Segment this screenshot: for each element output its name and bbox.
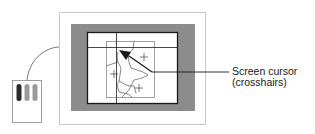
puck-button-1	[17, 84, 22, 101]
puck-button-3	[33, 84, 38, 101]
callout-label-subtitle: (crosshairs)	[232, 77, 287, 88]
puck-button-2	[25, 84, 30, 101]
puck-cable	[27, 47, 59, 80]
display-screen	[88, 33, 178, 104]
digitizer-puck	[13, 81, 42, 123]
